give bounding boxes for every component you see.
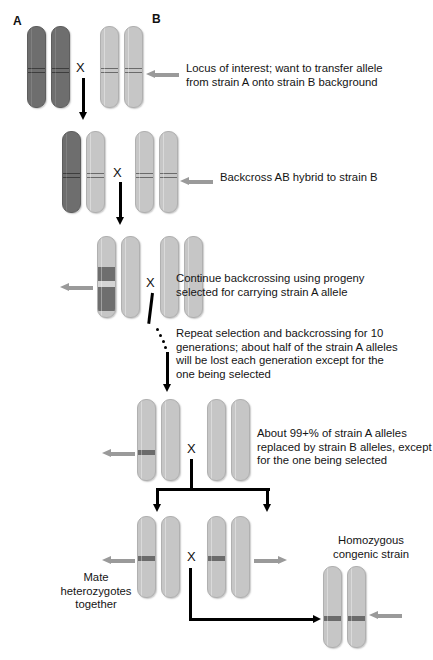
pointer-mate-heterozygotes-right xyxy=(254,556,287,565)
cross-symbol-gen3: X xyxy=(146,275,155,290)
recombination-gap xyxy=(98,281,115,287)
annotation-homozygous-congenic: Homozygous congenic strain xyxy=(316,534,426,561)
chromosome-gen2-b1 xyxy=(135,131,154,213)
annotation-mate-heterozygotes: Mate heterozygotes together xyxy=(46,571,146,612)
pointer-locus-of-interest xyxy=(146,70,179,79)
cross-symbol-gen5: X xyxy=(187,549,196,564)
locus-line xyxy=(28,68,45,69)
branch-bar xyxy=(157,488,270,491)
chromosome-gen2-a xyxy=(62,131,81,213)
chromosome-gen1-b1 xyxy=(100,26,119,108)
annotation-locus-of-interest: Locus of interest; want to transfer alle… xyxy=(186,62,432,89)
locus-line xyxy=(136,173,153,174)
arrow-gen4-to-gen5-right xyxy=(263,488,272,512)
strain-b-label: B xyxy=(152,12,161,26)
pointer-homozygous-locus xyxy=(369,611,402,620)
chromosome-gen4-b2 xyxy=(231,399,250,481)
chromosome-homozygous-1 xyxy=(323,566,342,648)
locus-band-strain-a xyxy=(324,616,341,621)
chromosome-gen3-recombinant xyxy=(97,236,116,318)
annotation-backcross-ab: Backcross AB hybrid to strain B xyxy=(220,171,432,185)
locus-band-strain-a xyxy=(208,556,225,561)
chromosome-gen1-b2 xyxy=(124,26,143,108)
chromosome-gen4-congenic xyxy=(137,399,156,481)
locus-line xyxy=(63,177,80,178)
annotation-ninety-nine-percent: About 99+% of strain A alleles replaced … xyxy=(257,427,433,468)
chromosome-gen1-a1 xyxy=(27,26,46,108)
locus-line xyxy=(87,173,104,174)
chromosome-gen4-b1 xyxy=(207,399,226,481)
locus-line xyxy=(125,72,142,73)
locus-line xyxy=(87,177,104,178)
arrow-dot xyxy=(164,346,167,349)
chromosome-homozygous-2 xyxy=(347,566,366,648)
chromosome-gen2-b2 xyxy=(159,131,178,213)
arrow-dot xyxy=(159,334,162,337)
arrow-dot xyxy=(162,340,165,343)
locus-line xyxy=(160,177,177,178)
arrow-gen4-to-gen5-left xyxy=(153,488,162,512)
annotation-repeat-selection: Repeat selection and backcrossing for 10… xyxy=(176,327,432,381)
locus-line xyxy=(52,68,69,69)
cross-symbol-gen2: X xyxy=(113,165,122,180)
locus-band-strain-a xyxy=(348,616,365,621)
arrow-gen3-to-gen4 xyxy=(163,352,172,392)
elbow-vertical xyxy=(189,568,192,621)
annotation-continue-backcrossing: Continue backcrossing using progeny sele… xyxy=(176,272,432,299)
chromosome-gen2-b xyxy=(86,131,105,213)
cross-symbol-gen1: X xyxy=(76,60,85,75)
arrow-gen3-segment xyxy=(147,293,154,324)
arrow-gen2-to-gen3 xyxy=(116,182,125,225)
arrow-to-homozygous xyxy=(189,615,321,624)
branch-stem xyxy=(190,459,193,490)
locus-line xyxy=(101,68,118,69)
chromosome-gen5-right-b xyxy=(231,516,250,598)
figure-canvas: A B X Locus of interest; want to transfe… xyxy=(0,0,433,660)
pointer-ninety-nine-percent xyxy=(102,449,135,458)
chromosome-gen5-left-b xyxy=(161,516,180,598)
chromosome-gen1-a2 xyxy=(51,26,70,108)
pointer-continue-backcrossing xyxy=(60,283,93,292)
chromosome-gen5-right-congenic xyxy=(207,516,226,598)
chromosome-gen4-b xyxy=(161,399,180,481)
locus-line xyxy=(101,72,118,73)
cross-symbol-gen4: X xyxy=(187,441,196,456)
locus-line xyxy=(125,68,142,69)
arrow-gen1-to-gen2 xyxy=(79,78,88,120)
locus-line xyxy=(52,72,69,73)
locus-line xyxy=(160,173,177,174)
pointer-backcross-ab xyxy=(180,177,213,186)
locus-band-strain-a xyxy=(138,556,155,561)
locus-line xyxy=(63,173,80,174)
locus-line xyxy=(28,72,45,73)
chromosome-gen3-b xyxy=(121,236,140,318)
strain-a-segment xyxy=(98,267,115,311)
locus-band-strain-a xyxy=(138,450,155,455)
locus-line xyxy=(136,177,153,178)
arrow-dot xyxy=(156,328,159,331)
pointer-mate-heterozygotes xyxy=(102,556,135,565)
strain-a-label: A xyxy=(13,14,22,28)
